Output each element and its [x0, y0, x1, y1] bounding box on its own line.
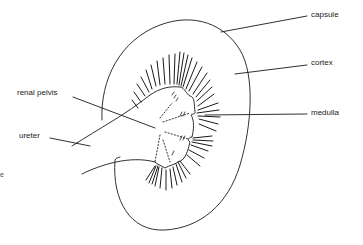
medulla-leader-line [205, 114, 307, 115]
capsule-leader-line [221, 16, 307, 32]
label-ureter: ureter [19, 132, 40, 140]
renal-pelvis-leader-line [73, 97, 155, 128]
label-medulla: medulla [311, 109, 339, 117]
label-cortex: cortex [311, 59, 333, 67]
ureter-leader-line [50, 138, 90, 146]
label-edge-fragment: e [0, 171, 4, 178]
label-renal-pelvis: renal pelvis [17, 89, 57, 97]
calyx-tick-marks [172, 92, 185, 155]
kidney-diagram [0, 0, 363, 245]
kidney-capsule-outline [102, 20, 250, 230]
cortex-leader-line [235, 65, 307, 74]
label-capsule: capsule [311, 11, 339, 19]
ureter-lower-edge [82, 160, 155, 174]
ureter-upper-edge [72, 95, 150, 146]
medulla-striations [132, 52, 220, 190]
